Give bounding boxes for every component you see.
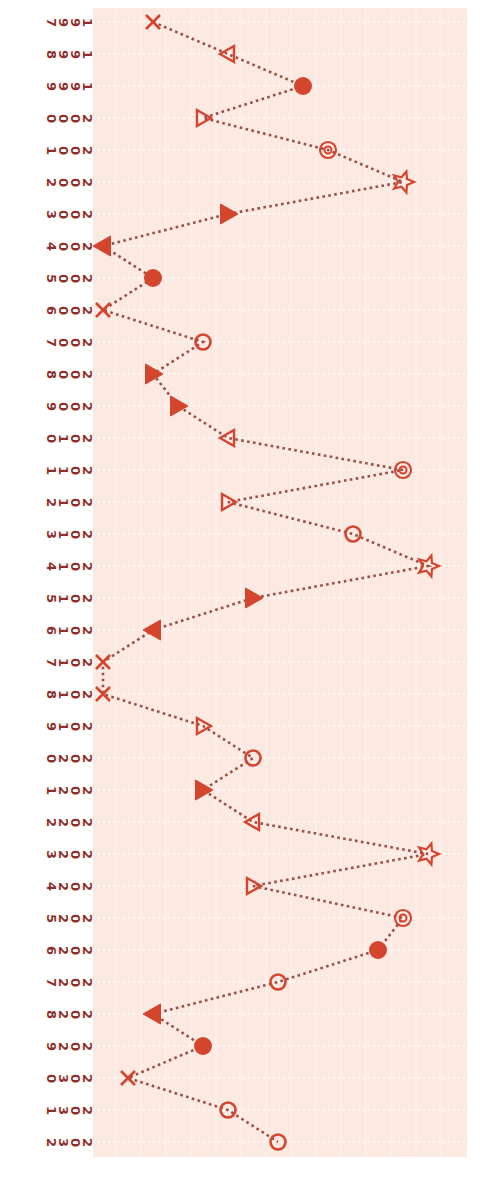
year-label-text: 7991: [46, 15, 94, 30]
year-label: 1302: [26, 1100, 94, 1120]
year-label-text: 7202: [46, 975, 94, 990]
year-label-text: 9002: [46, 399, 94, 414]
year-label-text: 5202: [46, 911, 94, 926]
year-label: 1102: [26, 460, 94, 480]
year-label-text: 4002: [46, 239, 94, 254]
year-label: 8991: [26, 44, 94, 64]
year-label: 5202: [26, 908, 94, 928]
year-label-text: 3102: [46, 527, 94, 542]
year-label-text: 5102: [46, 591, 94, 606]
year-label: 0102: [26, 428, 94, 448]
year-label-text: 3202: [46, 847, 94, 862]
year-label-text: 2002: [46, 175, 94, 190]
year-label: 0002: [26, 108, 94, 128]
year-label: 8202: [26, 1004, 94, 1024]
year-label: 9102: [26, 716, 94, 736]
year-label: 1002: [26, 140, 94, 160]
year-label-text: 8002: [46, 367, 94, 382]
year-label: 3202: [26, 844, 94, 864]
marker-2029-filled-circle: [194, 1037, 212, 1055]
year-label: 3102: [26, 524, 94, 544]
year-label: 4202: [26, 876, 94, 896]
year-label: 9002: [26, 396, 94, 416]
year-label-text: 9202: [46, 1039, 94, 1054]
year-label-text: 2302: [46, 1135, 94, 1150]
year-label-text: 6102: [46, 623, 94, 638]
year-label: 2102: [26, 492, 94, 512]
rotated-line-chart: 7991899199910002100220023002400250026002…: [0, 0, 494, 1181]
year-label-text: 8202: [46, 1007, 94, 1022]
year-label-text: 8991: [46, 47, 94, 62]
year-label-text: 8102: [46, 687, 94, 702]
year-label: 4102: [26, 556, 94, 576]
year-label-text: 2102: [46, 495, 94, 510]
year-label: 0202: [26, 748, 94, 768]
year-label-text: 6002: [46, 303, 94, 318]
marker-1999-filled-circle: [294, 77, 312, 95]
year-label: 3002: [26, 204, 94, 224]
year-label: 6102: [26, 620, 94, 640]
year-label: 7002: [26, 332, 94, 352]
year-label-text: 6202: [46, 943, 94, 958]
year-label: 2002: [26, 172, 94, 192]
year-label: 7102: [26, 652, 94, 672]
year-label-text: 3002: [46, 207, 94, 222]
year-label: 2302: [26, 1132, 94, 1152]
year-label-text: 2202: [46, 815, 94, 830]
year-label-text: 5002: [46, 271, 94, 286]
year-label-text: 1102: [46, 463, 94, 478]
year-label: 9202: [26, 1036, 94, 1056]
year-label-text: 7102: [46, 655, 94, 670]
year-label-text: 4202: [46, 879, 94, 894]
marker-2026-filled-circle: [369, 941, 387, 959]
year-label: 7202: [26, 972, 94, 992]
year-label-text: 0302: [46, 1071, 94, 1086]
year-label: 6202: [26, 940, 94, 960]
year-label-text: 1002: [46, 143, 94, 158]
year-label-text: 0002: [46, 111, 94, 126]
year-label: 9991: [26, 76, 94, 96]
year-label: 8102: [26, 684, 94, 704]
year-label-text: 0202: [46, 751, 94, 766]
year-label-text: 1302: [46, 1103, 94, 1118]
year-label: 1202: [26, 780, 94, 800]
year-label: 0302: [26, 1068, 94, 1088]
year-label-text: 0102: [46, 431, 94, 446]
year-label-text: 1202: [46, 783, 94, 798]
year-label: 8002: [26, 364, 94, 384]
year-label-text: 7002: [46, 335, 94, 350]
year-label: 5102: [26, 588, 94, 608]
year-label: 2202: [26, 812, 94, 832]
year-label: 4002: [26, 236, 94, 256]
year-label: 6002: [26, 300, 94, 320]
year-label: 7991: [26, 12, 94, 32]
year-label-text: 9102: [46, 719, 94, 734]
marker-2005-filled-circle: [144, 269, 162, 287]
year-label-text: 4102: [46, 559, 94, 574]
year-label-text: 9991: [46, 79, 94, 94]
year-label: 5002: [26, 268, 94, 288]
